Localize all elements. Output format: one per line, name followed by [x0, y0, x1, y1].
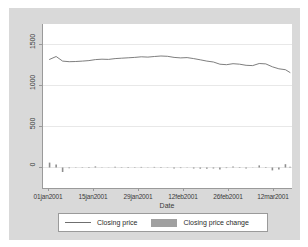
legend-line-key-icon	[65, 222, 91, 223]
x-tick-mark-4	[228, 188, 229, 191]
legend-label-closing-price-change: Closing price change	[183, 219, 248, 226]
x-tick-mark-5	[273, 188, 274, 191]
y-tick-mark-1500	[39, 44, 42, 45]
y-tick-label-1500: 1500	[29, 32, 36, 51]
y-axis: 1500 1000 500 0	[23, 24, 42, 188]
legend-entry-closing-price-change[interactable]: Closing price change	[151, 214, 248, 231]
x-tick-mark-3	[183, 188, 184, 191]
x-axis-title: Date	[42, 202, 292, 209]
x-axis-line	[42, 188, 292, 189]
plot-svg	[43, 24, 292, 188]
legend-entry-closing-price[interactable]: Closing price	[65, 214, 137, 231]
series-closing-price	[50, 56, 290, 73]
legend-label-closing-price: Closing price	[97, 219, 137, 226]
y-tick-mark-0	[39, 167, 42, 168]
y-tick-mark-1000	[39, 85, 42, 86]
plot-region	[42, 24, 292, 188]
x-tick-label-2: 29jan2001	[123, 193, 152, 200]
x-tick-label-4: 26feb2001	[213, 193, 242, 200]
x-tick-mark-2	[138, 188, 139, 191]
y-tick-label-500: 500	[29, 114, 36, 133]
chart-figure: 1500 1000 500 0 01jan2001 15jan2001 29ja…	[0, 0, 308, 247]
y-tick-label-0: 0	[29, 155, 36, 174]
y-tick-mark-500	[39, 126, 42, 127]
x-tick-mark-1	[93, 188, 94, 191]
gridlines	[43, 45, 292, 168]
x-tick-label-3: 12feb2001	[168, 193, 197, 200]
y-tick-label-1000: 1000	[29, 73, 36, 92]
x-tick-label-1: 15jan2001	[78, 193, 107, 200]
x-tick-label-5: 12mar2001	[257, 193, 289, 200]
graph-canvas: 1500 1000 500 0 01jan2001 15jan2001 29ja…	[9, 8, 300, 240]
x-axis: 01jan2001 15jan2001 29jan2001 12feb2001 …	[42, 188, 292, 212]
legend-swatch-key-icon	[151, 219, 177, 227]
x-tick-mark-0	[48, 188, 49, 191]
chart-legend: Closing price Closing price change	[58, 213, 268, 232]
x-tick-label-0: 01jan2001	[33, 193, 62, 200]
